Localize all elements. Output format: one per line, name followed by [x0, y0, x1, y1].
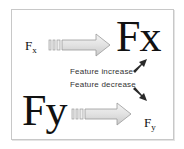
grow-arrow-icon [48, 32, 112, 58]
big-fx-label: Fx [116, 15, 160, 59]
arrow-up-right-icon [131, 57, 149, 74]
small-fy-subscript: y [151, 122, 156, 132]
big-fy-label: Fy [22, 89, 66, 133]
feature-increase-label: Feature increase [70, 68, 133, 76]
arrow-down-right-icon [131, 86, 149, 103]
shrink-arrow-icon [71, 102, 133, 127]
small-fx-subscript: x [32, 45, 37, 55]
small-fy-label: Fy [144, 116, 156, 132]
small-fx-label: Fx [25, 39, 37, 55]
feature-decrease-label: Feature decrease [70, 81, 136, 89]
